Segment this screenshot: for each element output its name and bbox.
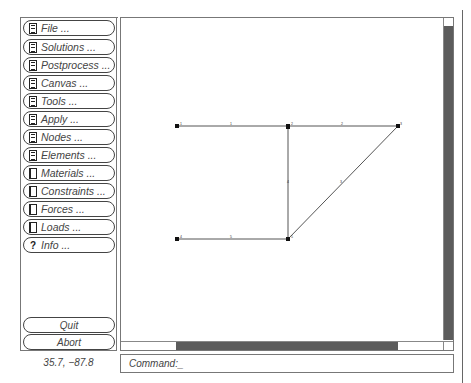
truss-model-drawing: 1 2 3 4 5 1 2 3 4 5 [0,0,471,383]
node-marker[interactable] [286,124,290,129]
node-label: 5 [291,235,293,239]
cursor-coordinates: 35.7, −87.8 [20,357,117,368]
node-label: 1 [180,122,182,126]
element-label: 3 [340,180,342,184]
node-marker[interactable] [175,237,179,241]
node-label: 2 [291,122,293,126]
window-edge-divider [462,10,463,383]
element-label: 4 [287,180,289,184]
node-label: 3 [400,122,402,126]
horizontal-scrollbar-thumb[interactable] [176,342,398,350]
element-3[interactable] [288,126,398,239]
scrollbar-corner [443,341,453,350]
node-marker[interactable] [175,124,179,128]
element-label: 1 [230,122,232,126]
element-label: 2 [341,122,343,126]
element-label: 5 [230,235,232,239]
node-label: 4 [180,235,182,239]
command-input[interactable]: Command:_ [120,354,454,373]
node-marker[interactable] [286,237,290,241]
vertical-scrollbar-thumb[interactable] [444,26,453,340]
